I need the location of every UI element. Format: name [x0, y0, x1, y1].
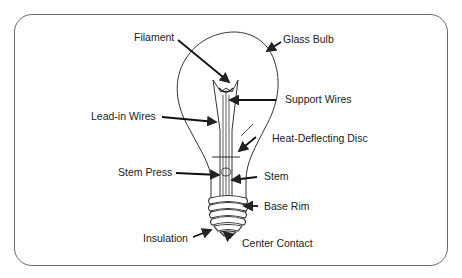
- label-support-wires: Support Wires: [285, 94, 352, 105]
- arrow-filament: [178, 40, 229, 82]
- label-lead-in-wires: Lead-in Wires: [91, 111, 156, 122]
- label-base-rim: Base Rim: [264, 201, 310, 212]
- screw-base: [209, 196, 248, 237]
- light-bulb-illustration: [0, 0, 462, 278]
- arrow-insulation: [193, 230, 211, 237]
- label-stem-press: Stem Press: [118, 167, 172, 178]
- arrow-stem: [232, 177, 257, 180]
- label-center-contact: Center Contact: [242, 238, 313, 249]
- label-insulation: Insulation: [143, 233, 188, 244]
- stem-funnel: [213, 80, 238, 200]
- label-glass-bulb: Glass Bulb: [283, 34, 334, 45]
- arrow-stem-press: [176, 173, 219, 175]
- arrow-heat-deflecting-disc: [239, 137, 256, 151]
- arrow-lead-in-wires: [162, 117, 216, 122]
- arrow-glass-bulb: [267, 42, 281, 51]
- label-stem: Stem: [264, 171, 289, 182]
- glass-bulb-outline: [177, 32, 278, 212]
- label-heat-deflecting-disc: Heat-Deflecting Disc: [272, 133, 368, 144]
- label-filament: Filament: [134, 32, 174, 43]
